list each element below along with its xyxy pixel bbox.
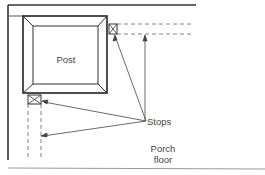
stops-leader-arrows (41, 35, 147, 137)
stop-bottom-left (28, 95, 41, 160)
post-stops-diagram (0, 0, 265, 175)
post-label: Post (48, 54, 84, 65)
porch-label-line2: floor (148, 154, 178, 165)
stops-label: Stops (147, 116, 177, 127)
stop-top-right (109, 24, 192, 34)
wall-corner (8, 5, 196, 160)
porch-floor-edge (8, 168, 265, 169)
porch-label-line1: Porch (148, 143, 178, 154)
